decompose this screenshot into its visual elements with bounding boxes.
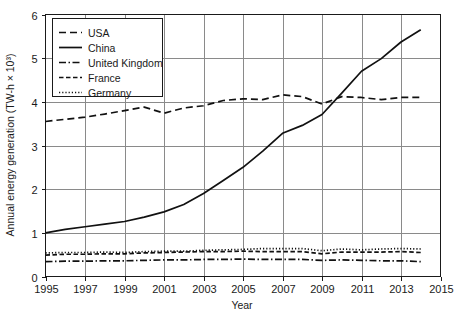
y-tick-label: 6 [31,10,37,22]
x-tick-label: 2009 [310,283,334,295]
series-line-usa [46,95,421,122]
x-tick-label: 2011 [351,283,375,295]
energy-generation-chart: 0123456 19951997199920012003200520072009… [0,0,469,324]
legend-label-germany: Germany [88,87,132,99]
series-line-united-kingdom [46,259,421,262]
x-tick-label: 2007 [271,283,295,295]
x-tick-label: 2001 [152,283,176,295]
x-tick-label: 2003 [192,283,216,295]
x-tick-label: 1995 [34,283,58,295]
y-tick-label: 3 [31,141,37,153]
y-tick-label: 5 [31,53,37,65]
y-tick-label: 2 [31,184,37,196]
x-axis-title: Year [231,299,253,311]
legend: USAChinaUnited KingdomFranceGermany [53,19,163,99]
series-line-france [46,251,421,255]
x-tickmarks [47,277,442,281]
legend-label-china: China [88,42,116,54]
y-tick-label: 1 [31,228,37,240]
y-tickmarks [42,16,46,278]
legend-label-france: France [88,72,121,84]
x-tick-label: 2005 [231,283,255,295]
legend-label-united-kingdom: United Kingdom [88,57,163,69]
legend-label-usa: USA [88,27,110,39]
x-tick-label: 2013 [389,283,413,295]
y-tick-labels: 0123456 [31,10,37,284]
y-tick-label: 4 [31,97,37,109]
chart-svg: 0123456 19951997199920012003200520072009… [0,0,469,324]
x-tick-label: 1997 [73,283,97,295]
y-axis-title: Annual energy generation (TW-h × 10³) [4,54,16,237]
x-tick-labels: 1995199719992001200320052007200920112013… [34,283,453,295]
x-tick-label: 1999 [113,283,137,295]
x-tick-label: 2015 [429,283,453,295]
